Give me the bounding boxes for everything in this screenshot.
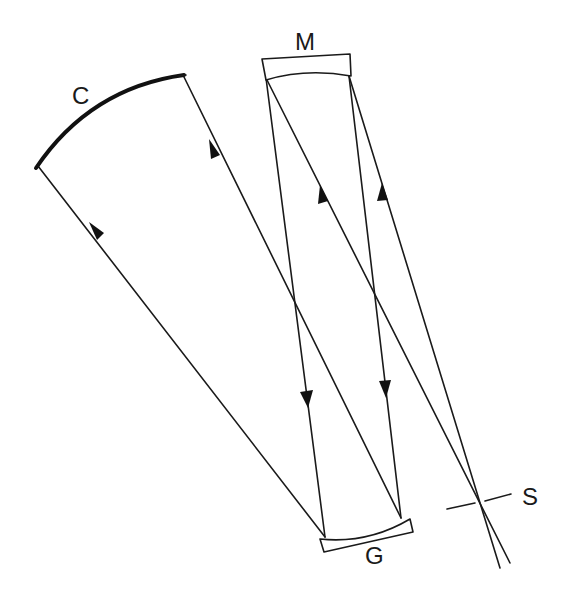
camera-mirror-m — [262, 54, 351, 80]
ray-g-right-to-c-right — [184, 77, 401, 518]
label-m: M — [295, 28, 315, 55]
ray-g-left-to-c-left — [38, 166, 325, 537]
label-s: S — [522, 483, 538, 510]
arrow-up-icon — [318, 185, 328, 204]
optical-diagram: C M G S — [0, 0, 565, 600]
slit-line-right — [485, 494, 511, 501]
collimator-mirror-c — [36, 75, 184, 168]
label-g: G — [365, 542, 384, 569]
slit-line-left — [447, 503, 475, 509]
label-c: C — [72, 82, 89, 109]
arrow-up-icon — [209, 139, 220, 159]
diagram-canvas: C M G S — [0, 0, 565, 600]
ray-m-right-to-g-right — [349, 76, 401, 518]
arrow-down-icon — [300, 390, 313, 408]
arrow-down-icon — [379, 380, 391, 398]
arrow-up-icon — [377, 183, 388, 201]
ray-m-left-to-g-left — [266, 78, 325, 537]
arrow-up-icon — [89, 222, 104, 240]
ray-slit-to-m-right — [349, 76, 500, 568]
mirror-c-end-tick — [178, 75, 186, 76]
